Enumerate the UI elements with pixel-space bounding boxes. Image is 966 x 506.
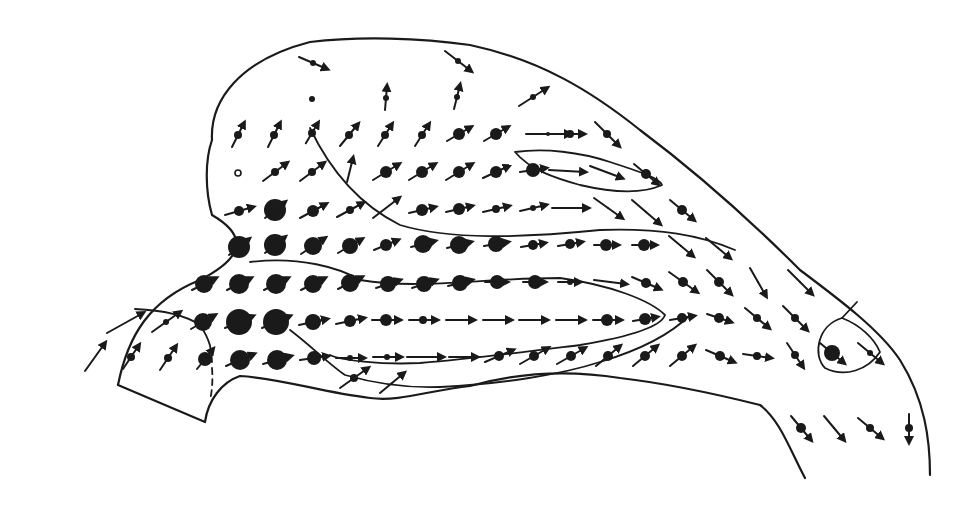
vector-arrow-icon <box>301 275 325 293</box>
vector-arrow-icon <box>454 85 460 109</box>
vector-arrow-icon <box>446 203 472 215</box>
vector-arrow-icon <box>411 235 435 253</box>
vector-arrow-icon <box>523 275 545 289</box>
vector-arrow-icon <box>520 163 546 177</box>
vector-arrow-icon <box>446 319 474 321</box>
vector-arrow-icon <box>264 199 286 221</box>
vector-arrow-icon <box>634 164 658 184</box>
vector-arrow-icon <box>558 239 582 249</box>
vector-arrow-icon <box>632 200 660 224</box>
vector-arrow-icon <box>552 207 588 209</box>
vector-arrow-icon <box>336 315 364 327</box>
vector-arrow-icon <box>483 166 509 178</box>
vector-arrow-icon <box>228 236 250 258</box>
vector-arrow-icon <box>824 416 844 440</box>
vector-arrow-icon <box>669 272 697 292</box>
vector-arrow-icon <box>264 234 286 256</box>
vector-arrow-icon <box>549 170 585 172</box>
contour-left-dashed <box>210 368 212 400</box>
vector-arrow-icon <box>232 123 244 147</box>
vector-arrow-icon <box>483 319 511 321</box>
vector-arrow-icon <box>415 124 429 146</box>
vector-arrow-icon <box>226 350 254 370</box>
vector-arrow-icon <box>745 308 769 328</box>
vector-arrow-icon <box>484 127 508 141</box>
vector-arrow-icon <box>225 309 253 335</box>
vector-arrow-icon <box>262 309 290 335</box>
vector-arrow-icon <box>670 200 694 220</box>
contour-upper-lobe <box>310 128 735 250</box>
vector-arrow-icon <box>299 314 327 330</box>
vector-arrow-icon <box>556 130 584 138</box>
vector-arrow-icon <box>791 416 811 440</box>
vector-arrow-icon <box>378 124 392 146</box>
vector-arrow-icon <box>192 275 216 293</box>
vector-arrow-icon <box>347 158 353 182</box>
vector-arrow-icon <box>594 280 626 284</box>
vector-arrow-icon <box>905 414 913 442</box>
vector-arrow-icon <box>191 313 215 331</box>
vector-arrow-icon <box>263 350 291 370</box>
vector-arrow-icon <box>309 96 315 102</box>
vector-arrow-icon <box>820 343 844 363</box>
vector-arrow-icon <box>706 350 734 362</box>
vector-arrow-icon <box>632 277 660 289</box>
vector-arrow-icon <box>594 198 622 218</box>
vector-arrow-icon <box>484 236 508 252</box>
vector-arrow-icon <box>590 166 622 178</box>
vector-arrow-icon <box>336 355 364 361</box>
vector-arrow-icon <box>707 313 731 323</box>
vector-arrow-icon <box>519 88 547 106</box>
vector-arrow-icon <box>707 270 731 294</box>
vector-arrow-icon <box>519 319 547 321</box>
vector-arrow-icon <box>152 312 180 332</box>
vector-arrow-icon <box>485 275 507 289</box>
vector-arrow-icon <box>632 239 656 251</box>
vector-arrow-icon <box>788 270 812 294</box>
vector-arrow-icon <box>409 164 435 180</box>
vector-arrow-icon <box>409 316 437 324</box>
vector-arrow-icon <box>633 313 657 325</box>
vector-arrow-icon <box>557 348 585 364</box>
vector-arrow-icon <box>449 356 477 358</box>
vector-arrow-icon <box>300 204 326 218</box>
vector-arrow-icon <box>301 237 325 255</box>
vector-arrow-icon <box>783 306 807 330</box>
vector-arrow-icon <box>227 274 251 294</box>
vector-arrow-icon <box>556 319 584 321</box>
vector-arrow-icon <box>263 163 287 181</box>
vector-arrow-icon <box>750 268 766 296</box>
vector-arrow-icon <box>85 343 105 371</box>
vector-arrow-icon <box>858 418 882 438</box>
vector-arrow-icon <box>340 368 368 388</box>
vector-arrow-icon <box>445 51 471 71</box>
vector-arrow-icon <box>340 124 358 146</box>
vector-arrow-icon <box>197 349 213 369</box>
vector-arrow-icon <box>407 356 443 358</box>
vector-arrow-icon <box>594 239 618 251</box>
vector-arrow-icon <box>268 123 280 147</box>
vector-arrow-icon <box>787 343 803 367</box>
vector-arrow-icon <box>447 236 471 254</box>
vector-arrow-icon <box>374 239 398 251</box>
vector-arrows <box>85 51 913 442</box>
vector-field-figure <box>0 0 966 506</box>
vector-arrow-icon <box>235 170 241 176</box>
vector-arrow-icon <box>338 274 362 292</box>
vector-arrow-icon <box>409 204 435 216</box>
vector-arrow-icon <box>521 240 545 250</box>
vector-arrow-icon <box>160 346 176 370</box>
region-outline-lower <box>118 373 805 478</box>
vector-arrow-icon <box>520 205 546 211</box>
vector-arrow-icon <box>446 164 472 180</box>
vector-arrow-icon <box>338 238 362 254</box>
vector-arrow-icon <box>593 314 621 326</box>
vector-arrow-icon <box>225 206 253 216</box>
vector-arrow-icon <box>372 314 400 326</box>
vector-arrow-icon <box>743 352 771 360</box>
vector-arrow-icon <box>669 236 693 256</box>
vector-arrow-icon <box>670 346 694 366</box>
vector-arrow-icon <box>373 164 399 180</box>
vector-arrow-icon <box>300 163 324 181</box>
vector-arrow-icon <box>373 198 399 218</box>
